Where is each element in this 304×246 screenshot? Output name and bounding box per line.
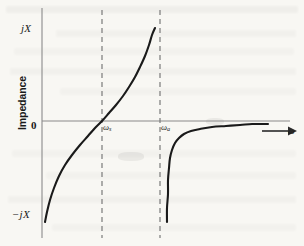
omega-s-subscript: s [109,125,111,132]
impedance-vs-frequency-figure: jX −jX 0 Impedance ω ωs ωa [0,0,304,246]
y-axis-top-label: jX [21,22,31,34]
y-axis-bottom-label: −jX [12,208,30,220]
omega-a-subscript: a [167,125,170,132]
y-axis-title: Impedance [16,68,28,138]
impedance-curve-branch-high [167,124,268,222]
tick-label-omega-s: ωs [103,122,111,132]
tick-label-omega-a: ωa [161,122,170,132]
impedance-curve-branch-low [45,28,155,222]
plot-canvas [0,0,304,246]
x-axis-title: ω [288,126,294,136]
origin-label: 0 [31,119,37,131]
